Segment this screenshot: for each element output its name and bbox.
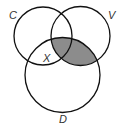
label-c: C [9, 9, 17, 21]
venn-diagram: C V X D [0, 0, 124, 130]
label-d: D [59, 113, 67, 125]
label-v: V [108, 9, 117, 21]
label-x: X [42, 52, 51, 64]
